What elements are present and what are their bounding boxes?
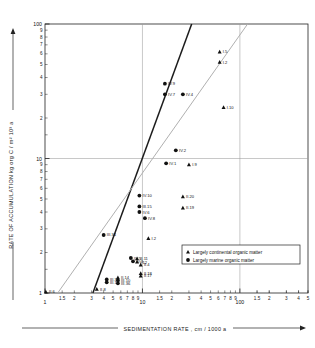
data-point-circle[interactable] [129, 256, 133, 260]
x-tick-label-minor: 4 [200, 296, 203, 301]
data-point-circle[interactable] [174, 148, 178, 152]
data-point-circle[interactable] [131, 259, 135, 263]
x-tick-label: 10 [140, 299, 146, 305]
x-axis-title: SEDIMENTATION RATE , cm / 1000 a [124, 326, 227, 332]
data-point-label: II.17 [144, 273, 153, 278]
x-tick-label-minor: 1.5 [254, 296, 261, 301]
x-tick-label-minor: 4 [102, 296, 105, 301]
legend-marker-circle [186, 258, 190, 262]
data-point-circle[interactable] [163, 92, 167, 96]
data-point-circle[interactable] [143, 216, 147, 220]
x-tick-label-minor: 2 [73, 296, 76, 301]
data-point-label: II.20 [186, 194, 195, 199]
data-point-label: IV.7 [168, 92, 176, 97]
x-tick-label-minor: 5 [209, 296, 212, 301]
y-tick-label: 1 [39, 290, 42, 296]
x-tick-label-minor: 3 [188, 296, 191, 301]
y-tick-label-minor: 8 [40, 35, 43, 40]
data-point-label: I.9 [192, 162, 197, 167]
data-point-circle[interactable] [137, 205, 141, 209]
y-tick-label-minor: 2 [40, 116, 43, 121]
data-point-circle[interactable] [102, 233, 106, 237]
legend-label: Largely continental organic matter [193, 250, 263, 255]
data-point-label: II.19 [186, 205, 195, 210]
x-tick-label-minor: 2 [170, 296, 173, 301]
y-tick-label-minor: 5 [40, 62, 43, 67]
y-tick-label: 100 [33, 21, 42, 27]
y-tick-label-minor: 3 [40, 226, 43, 231]
figure-scatter-plot: 11.523456789101.5234567891001.5234512345… [0, 0, 315, 348]
y-tick-label-minor: 3 [40, 92, 43, 97]
x-tick-label-minor: 6 [120, 296, 123, 301]
data-point-label: IV.1 [169, 161, 177, 166]
data-point-label: II.6 [49, 289, 55, 294]
y-tick-label-minor: 9 [40, 162, 43, 167]
data-point-label: II.8 [100, 287, 106, 292]
x-tick-label-minor: 4 [297, 296, 300, 301]
data-point-label: I.5 [223, 49, 228, 54]
x-tick-label-minor: 6 [217, 296, 220, 301]
y-tick-label-minor: 6 [40, 186, 43, 191]
data-point-label: IV.4 [186, 92, 194, 97]
y-tick-label-minor: 8 [40, 169, 43, 174]
data-point-label: II.4 [144, 262, 150, 267]
x-tick-label-minor: 8 [229, 296, 232, 301]
x-tick-label-minor: 7 [224, 296, 227, 301]
data-point-circle[interactable] [116, 281, 120, 285]
x-tick-label-minor: 5 [307, 296, 310, 301]
x-tick-label-minor: 1.5 [59, 296, 66, 301]
data-point-circle[interactable] [163, 82, 167, 86]
data-point-label: I.10 [227, 105, 235, 110]
x-tick-label-minor: 5 [112, 296, 115, 301]
data-point-label: I.2 [152, 236, 157, 241]
data-point-label: IV.2 [179, 148, 187, 153]
x-tick-label-minor: 2 [268, 296, 271, 301]
y-tick-label-minor: 4 [40, 75, 43, 80]
data-point-label: IV.9 [168, 81, 176, 86]
data-point-circle[interactable] [164, 161, 168, 165]
data-point-label: I.2 [223, 60, 228, 65]
y-tick-label-minor: 2 [40, 250, 43, 255]
data-point-label: III.15 [143, 204, 153, 209]
data-point-label: III.34 [107, 232, 117, 237]
x-tick-label-minor: 1.5 [156, 296, 163, 301]
data-point-circle[interactable] [137, 194, 141, 198]
data-point-label: IV.8 [148, 216, 156, 221]
data-point-circle[interactable] [137, 210, 141, 214]
y-axis-title: RATE OF ACCUMULATION kg org C / m² 10³ a [8, 121, 14, 248]
x-axis-arrow [300, 326, 306, 331]
x-tick-label-minor: 3 [285, 296, 288, 301]
plot-canvas: 11.523456789101.5234567891001.5234512345… [0, 0, 315, 348]
x-tick-label: 100 [236, 299, 245, 305]
data-point-label: III.36 [121, 281, 131, 286]
data-point-circle[interactable] [105, 280, 109, 284]
data-point-label: IV.6 [143, 210, 151, 215]
y-axis-arrow [11, 28, 16, 34]
x-tick-label-minor: 8 [132, 296, 135, 301]
y-tick-label-minor: 7 [40, 42, 43, 47]
data-point-circle[interactable] [181, 92, 185, 96]
y-tick-label: 10 [36, 156, 42, 162]
y-tick-label-minor: 7 [40, 177, 43, 182]
y-tick-label-minor: 9 [40, 28, 43, 33]
data-point-label: II.14 [121, 275, 130, 280]
y-tick-label-minor: 6 [40, 51, 43, 56]
y-tick-label-minor: 5 [40, 197, 43, 202]
x-tick-label: 1 [44, 299, 47, 305]
x-tick-label-minor: 7 [126, 296, 129, 301]
legend-label: Largely marine organic matter [193, 258, 254, 263]
x-tick-label-minor: 3 [90, 296, 93, 301]
y-tick-label-minor: 4 [40, 210, 43, 215]
data-point-label: IV.10 [143, 193, 153, 198]
